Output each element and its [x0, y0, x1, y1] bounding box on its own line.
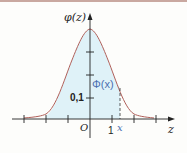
normal-distribution-chart: φ(z) z Φ(x) 0,1 O 1 x	[0, 0, 187, 153]
y-axis-label: φ(z)	[64, 12, 86, 23]
x-axis-label: z	[168, 124, 174, 135]
x-tick-label-1: 1	[108, 126, 114, 136]
y-axis-arrow-icon	[88, 13, 93, 20]
shaded-area	[46, 29, 120, 119]
chart-canvas	[0, 0, 187, 153]
x-axis-arrow-icon	[168, 117, 175, 122]
y-tick-label: 0,1	[70, 93, 84, 103]
origin-label: O	[80, 123, 88, 133]
x-marker-label: x	[117, 123, 123, 133]
phi-label: Φ(x)	[92, 79, 114, 90]
